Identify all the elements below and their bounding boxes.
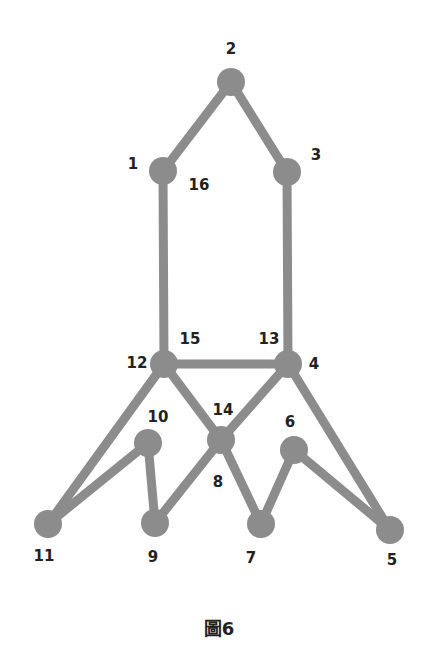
- edge-3-4: [287, 172, 288, 364]
- node-12: [150, 350, 178, 378]
- node-8: [207, 426, 235, 454]
- node-label: 3: [311, 148, 321, 163]
- node-label: 11: [34, 549, 55, 564]
- node-9: [141, 509, 169, 537]
- node-label: 16: [189, 178, 210, 193]
- node-label: 7: [246, 551, 256, 566]
- node-label: 2: [226, 42, 236, 57]
- edge-2-3: [231, 82, 287, 172]
- node-label: 5: [387, 553, 397, 568]
- node-label: 1: [128, 157, 138, 172]
- node-1: [149, 157, 177, 185]
- node-label: 8: [213, 475, 223, 490]
- graph-canvas: [0, 0, 439, 662]
- node-7: [247, 510, 275, 538]
- node-label: 6: [285, 415, 295, 430]
- node-label: 15: [180, 332, 201, 347]
- node-5: [376, 516, 404, 544]
- node-3: [273, 158, 301, 186]
- node-11: [34, 510, 62, 538]
- node-10: [134, 429, 162, 457]
- edge-8-9: [155, 440, 221, 523]
- node-label: 10: [148, 410, 169, 425]
- figure-caption: 圖6: [204, 614, 235, 640]
- edge-2-1: [163, 82, 231, 171]
- node-label: 14: [213, 403, 234, 418]
- node-label: 9: [148, 550, 158, 565]
- node-6: [280, 436, 308, 464]
- node-label: 12: [127, 356, 148, 371]
- node-label: 13: [259, 332, 280, 347]
- edge-6-5: [294, 450, 390, 530]
- edge-1-12: [163, 171, 164, 364]
- node-2: [217, 68, 245, 96]
- node-label: 4: [309, 357, 319, 372]
- node-4: [274, 350, 302, 378]
